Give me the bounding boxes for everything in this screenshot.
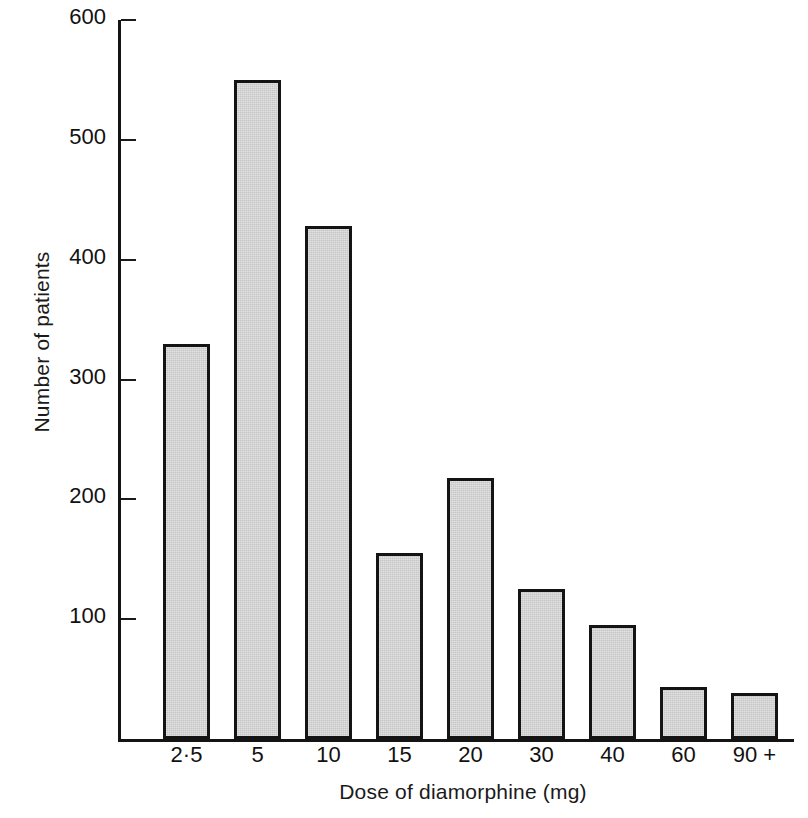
- y-axis-tick-label: 600: [22, 6, 106, 28]
- y-axis-tick-label: 200: [22, 485, 106, 507]
- bar: [305, 226, 352, 739]
- bar: [163, 344, 210, 739]
- bar: [731, 693, 778, 739]
- bar: [589, 625, 636, 739]
- x-axis-tick-label: 90 +: [695, 742, 808, 768]
- bar: [447, 478, 494, 739]
- bar: [518, 589, 565, 739]
- y-axis-tick-label: 100: [22, 605, 106, 627]
- y-axis-tick-label: 400: [22, 246, 106, 268]
- bar-chart-figure: Number of patients 100200300400500600 2·…: [0, 0, 808, 818]
- x-axis-title: Dose of diamorphine (mg): [118, 780, 808, 804]
- y-axis-tick-label: 300: [22, 366, 106, 388]
- y-axis-tick-label: 500: [22, 126, 106, 148]
- y-axis-title: Number of patients: [30, 182, 54, 502]
- bar: [376, 553, 423, 739]
- bar: [234, 80, 281, 739]
- bar: [660, 687, 707, 739]
- plot-area: [118, 20, 794, 739]
- bar-series: [118, 20, 794, 739]
